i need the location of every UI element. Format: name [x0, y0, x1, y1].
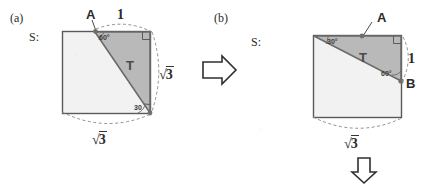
figure-canvas: (a) S: A 1 60° 30 T √3 √3 [0, 0, 421, 185]
down-arrow-icon [352, 158, 376, 183]
transition-arrow-down-group [0, 0, 421, 185]
